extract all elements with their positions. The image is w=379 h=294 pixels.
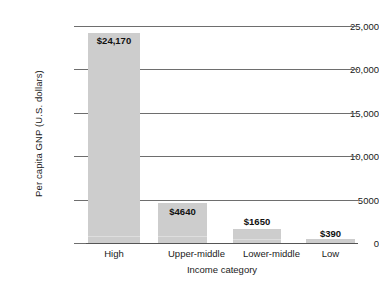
x-tick-label-low: Low: [306, 248, 355, 259]
bar-value-lower-middle: $1650: [233, 216, 281, 227]
bar-value-low: $390: [306, 228, 355, 239]
bar-inner-line: [158, 236, 207, 237]
bar-value-upper-middle: $4640: [158, 206, 207, 217]
bar-value-high: $24,170: [88, 35, 140, 46]
y-tick-mark-0: [74, 243, 86, 244]
bar-lower-middle: [233, 229, 281, 243]
y-tick-mark-25000: [74, 26, 86, 27]
x-axis-title: Income category: [86, 264, 358, 275]
y-tick-mark-10000: [74, 156, 86, 157]
bar-high: [88, 33, 140, 243]
bar-inner-line: [233, 239, 281, 240]
gridline-baseline-0: [86, 243, 358, 244]
gridline-25000: [86, 26, 358, 27]
y-tick-mark-20000: [74, 69, 86, 70]
bar-chart-figure: Per capita GNP (U.S. dollars) 25,000 20,…: [0, 0, 379, 294]
plot-area: $24,170 $4640 $1650 $390: [86, 26, 358, 243]
bar-inner-line: [88, 236, 140, 237]
y-tick-mark-5000: [74, 200, 86, 201]
y-axis-title: Per capita GNP (U.S. dollars): [33, 34, 44, 234]
bar-low: [306, 239, 355, 243]
y-tick-mark-15000: [74, 113, 86, 114]
